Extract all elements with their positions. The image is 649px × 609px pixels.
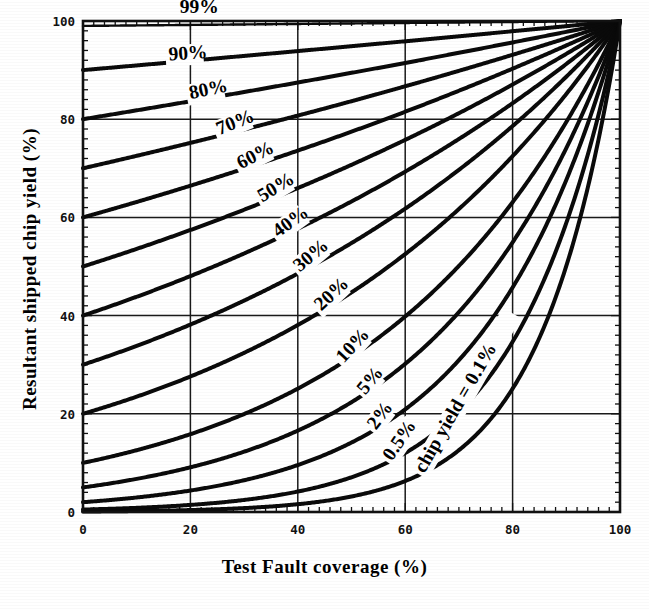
- y-tick-label: 0: [67, 505, 75, 520]
- yield-curve: [83, 21, 620, 168]
- x-tick-label: 20: [183, 522, 198, 537]
- y-tick-label: 20: [60, 407, 75, 422]
- curve-label-group: 5%: [350, 362, 388, 401]
- curve-label: 99%: [180, 0, 219, 17]
- y-tick-label: 100: [52, 14, 75, 29]
- figure-container: 020406080100020406080100 99%90%80%70%60%…: [0, 0, 649, 609]
- plot-frame: [83, 21, 620, 512]
- yield-curve: [83, 21, 620, 512]
- yield-curve: [83, 21, 620, 316]
- x-tick-label: 80: [505, 522, 520, 537]
- y-axis-title: Resultant shipped chip yield (%): [19, 19, 41, 519]
- x-tick-label: 40: [290, 522, 305, 537]
- grid-layer: [83, 21, 620, 512]
- curve-label: 80%: [187, 75, 230, 104]
- x-tick-label: 60: [398, 522, 413, 537]
- y-tick-label: 80: [60, 112, 75, 127]
- defect-level-chart: 020406080100020406080100 99%90%80%70%60%…: [0, 0, 649, 609]
- curves-layer: [83, 21, 620, 512]
- curve-label-group: 70%: [210, 105, 258, 142]
- x-tick-label: 100: [609, 522, 632, 537]
- yield-curve: [83, 21, 620, 510]
- yield-curve: [83, 21, 620, 502]
- curve-label-group: 20%: [308, 273, 354, 318]
- yield-curve: [83, 21, 620, 487]
- y-tick-label: 60: [60, 210, 75, 225]
- curve-label: 90%: [168, 41, 208, 65]
- y-tick-label: 40: [60, 309, 75, 324]
- curve-label-group: 40%: [266, 201, 313, 244]
- ticks-layer: [83, 21, 620, 512]
- x-axis-title: Test Fault coverage (%): [0, 556, 649, 578]
- x-tick-label: 0: [79, 522, 87, 537]
- curve-label-group: 90%: [165, 41, 209, 67]
- curve-label-group: 30%: [287, 235, 334, 280]
- curve-label-group: 99%: [177, 0, 219, 19]
